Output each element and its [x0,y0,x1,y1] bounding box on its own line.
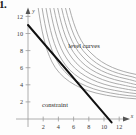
x-axis-arrow [123,117,130,122]
level-curve-3 [46,8,136,94]
x-tick-label: 8 [87,123,90,130]
y-tick-label: 4 [20,81,23,88]
x-tick-label: 10 [101,123,107,130]
level-curves-annotation: level curves [68,42,100,49]
x-ticks-group: 2 4 6 8 10 12 [42,117,123,130]
x-tick-label: 6 [72,123,75,130]
x-tick-label: 4 [57,123,60,130]
x-axis-label: x [130,113,134,119]
y-tick-label: 8 [20,47,23,54]
y-tick-label: 6 [20,64,23,71]
constraint-annotation: constraint [42,101,68,108]
lagrange-level-curves-figure: 1. [0,0,136,135]
x-tick-label: 2 [42,123,45,130]
y-axis-label: y [31,8,35,14]
y-tick-label: 12 [17,13,23,20]
y-axis-arrow [26,8,31,15]
plot-canvas: 2 4 6 8 10 12 2 4 6 8 10 12 x y lev [0,0,136,135]
x-tick-label: 12 [116,123,122,130]
y-tick-label: 10 [17,30,23,37]
y-tick-label: 2 [20,98,23,105]
